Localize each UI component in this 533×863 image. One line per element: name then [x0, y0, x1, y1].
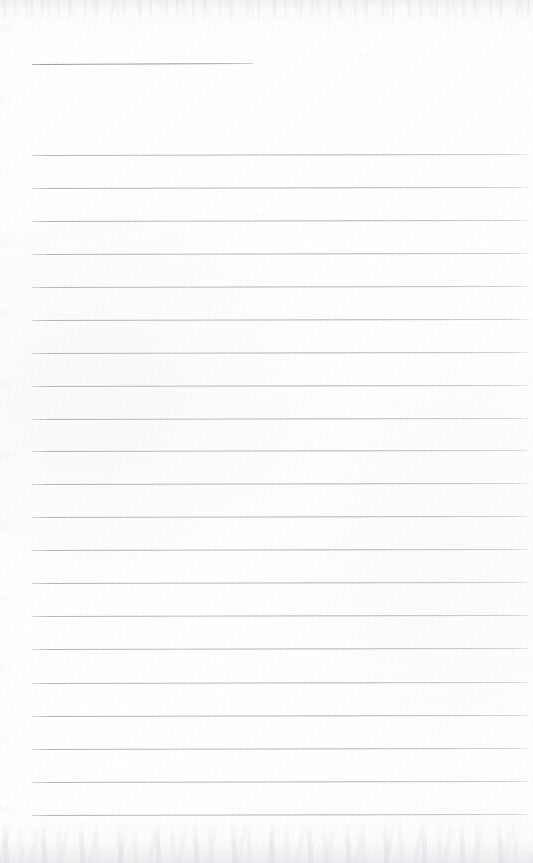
- header-rule: [32, 63, 253, 65]
- rule-13: [32, 549, 528, 551]
- rule-14: [32, 582, 528, 584]
- rule-8: [32, 385, 528, 387]
- rule-17: [32, 682, 528, 684]
- rule-9: [32, 418, 528, 420]
- rule-16: [32, 648, 528, 650]
- rule-18: [32, 715, 528, 717]
- rule-1: [32, 154, 528, 156]
- scanned-page: [0, 0, 533, 863]
- rule-19: [32, 748, 528, 750]
- rule-3: [32, 220, 528, 222]
- rule-6: [32, 319, 528, 321]
- rule-4: [32, 253, 528, 255]
- rule-5: [32, 286, 528, 288]
- rule-21: [32, 814, 528, 816]
- rule-2: [32, 187, 528, 189]
- rule-20: [32, 781, 528, 783]
- rule-15: [32, 615, 528, 617]
- rule-12: [32, 516, 528, 518]
- rule-11: [32, 483, 528, 485]
- rule-7: [32, 352, 528, 354]
- rule-10: [32, 450, 528, 452]
- ruled-lines-layer: [0, 0, 533, 863]
